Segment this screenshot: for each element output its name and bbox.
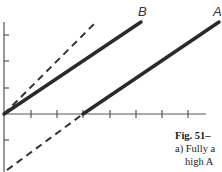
caption-line-1: a) Fully a	[175, 144, 215, 155]
line-a	[83, 22, 219, 114]
dashed-line-a-extension	[7, 114, 83, 170]
label-b: B	[138, 5, 147, 18]
caption-line-2: high A	[185, 157, 213, 168]
y-ticks	[4, 35, 9, 140]
line-b	[4, 22, 141, 114]
label-a: A	[213, 5, 222, 18]
figure-number: Fig. 51–	[175, 131, 211, 142]
dashed-line-b-extension	[4, 22, 96, 114]
